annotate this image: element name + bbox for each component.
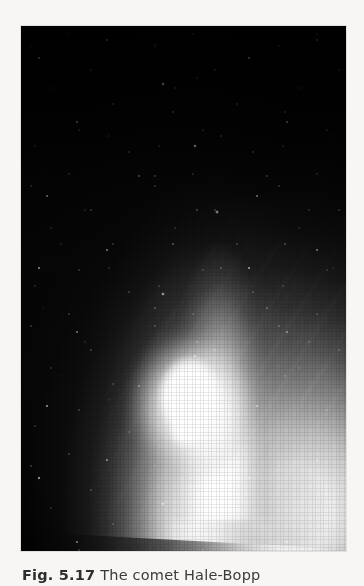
photo-frame — [21, 26, 346, 551]
figure-block: Fig. 5.17 The comet Hale-Bopp — [0, 0, 364, 586]
figure-number-label: Fig. 5.17 — [22, 567, 95, 583]
comet-hale-bopp-photograph — [21, 26, 346, 551]
figure-caption: Fig. 5.17 The comet Hale-Bopp — [22, 566, 346, 585]
halftone-print-texture — [21, 26, 346, 551]
figure-caption-text: The comet Hale-Bopp — [100, 567, 260, 583]
page: Fig. 5.17 The comet Hale-Bopp — [0, 0, 364, 586]
